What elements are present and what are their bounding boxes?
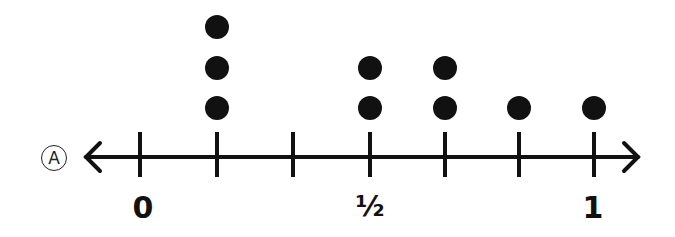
tick-label-0: 0 bbox=[133, 190, 154, 225]
tick-label-half: ½ bbox=[356, 190, 385, 223]
data-dot bbox=[358, 96, 382, 120]
data-dot bbox=[205, 56, 229, 80]
data-dot bbox=[205, 96, 229, 120]
number-line-axis bbox=[86, 143, 638, 171]
data-dot bbox=[433, 96, 457, 120]
dot-plot bbox=[0, 0, 675, 237]
tick-label-1: 1 bbox=[583, 190, 604, 225]
data-dot bbox=[507, 96, 531, 120]
data-dot bbox=[205, 15, 229, 39]
data-dot bbox=[358, 56, 382, 80]
tick-marks bbox=[140, 132, 594, 177]
data-dot bbox=[433, 56, 457, 80]
dots bbox=[205, 15, 606, 120]
data-dot bbox=[582, 96, 606, 120]
